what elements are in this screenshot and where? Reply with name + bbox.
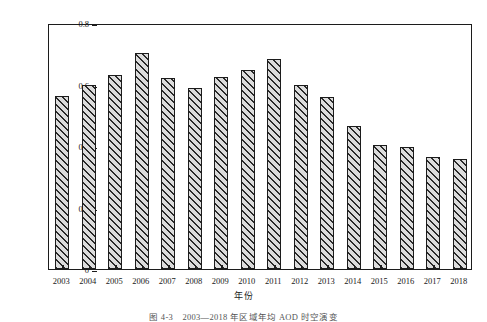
bar [373,145,387,269]
x-axis-tick-mark [168,265,169,270]
y-axis-tick: 0.8 [49,25,97,26]
bar [453,159,467,269]
y-axis-tick: 0 [49,271,97,272]
bar [214,77,228,269]
x-axis-tick-mark [460,265,461,270]
x-axis-tick-mark [301,265,302,270]
bar [188,88,202,269]
x-axis-tick-mark [354,265,355,270]
x-axis-tick-mark [62,265,63,270]
bar [241,70,255,269]
bar [82,85,96,270]
bar [347,126,361,269]
figure-container: AOD 00.20.40.60.8 2003200420052006200720… [0,0,487,322]
x-axis-tick-label: 2018 [441,276,477,286]
figure-caption: 图 4-3 2003—2018 年区域年均 AOD 时空演变 [0,310,487,322]
x-axis-tick-mark [274,265,275,270]
x-axis-tick-mark [221,265,222,270]
x-axis-tick-mark [433,265,434,270]
y-axis-tick-mark [92,25,97,26]
x-axis-tick-mark [142,265,143,270]
bar [267,59,281,269]
x-axis-tick-mark [380,265,381,270]
bar [400,147,414,269]
y-axis-tick-mark [92,271,97,272]
y-axis-tick-label: 0.8 [78,19,89,29]
bar [108,75,122,269]
x-axis-tick-mark [89,265,90,270]
plot-area: AOD 00.20.40.60.8 [48,24,472,270]
bar [320,97,334,269]
bar [294,85,308,269]
bar [426,157,440,269]
x-axis-title: 年份 [0,289,487,302]
x-axis-tick-mark [115,265,116,270]
x-axis-tick-mark [327,265,328,270]
bar [135,53,149,269]
bar [55,96,69,269]
x-axis-tick-mark [248,265,249,270]
x-axis-tick-mark [195,265,196,270]
bar [161,78,175,269]
x-axis-tick-mark [407,265,408,270]
